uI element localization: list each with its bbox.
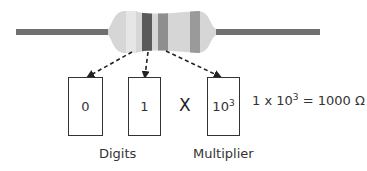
multiplier-exponent: 3	[229, 98, 235, 108]
equation-result: = 1000 Ω	[299, 93, 365, 108]
band-4	[190, 5, 200, 60]
resistor-body	[100, 5, 225, 60]
digit1-value: 0	[81, 99, 89, 114]
multiply-sign: X	[179, 95, 191, 115]
arrow-band3-to-multiplier	[166, 51, 219, 76]
resistor-diagram	[0, 0, 367, 171]
digit2-value: 1	[140, 99, 148, 114]
digit2-box: 1	[128, 77, 161, 136]
resistance-equation: 1 x 103 = 1000 Ω	[252, 93, 365, 108]
digits-label: Digits	[99, 146, 136, 161]
equation-prefix: 1 x 10	[252, 93, 293, 108]
arrow-band1-to-digit1	[89, 52, 132, 76]
band-2	[142, 5, 152, 60]
right-lead	[214, 29, 320, 35]
multiplier-label: Multiplier	[193, 146, 254, 161]
digit1-box: 0	[68, 77, 103, 136]
left-lead	[16, 29, 110, 35]
multiplier-value: 103	[212, 99, 234, 114]
arrow-band2-to-digit2	[145, 52, 148, 76]
multiplier-base: 10	[212, 99, 229, 114]
multiplier-box: 103	[207, 77, 240, 136]
